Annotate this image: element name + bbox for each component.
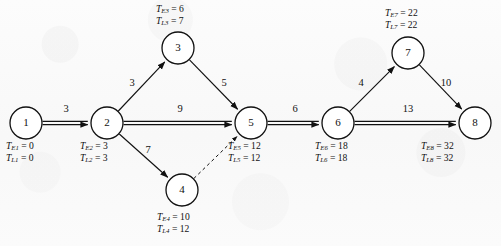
edge-weight-5-6: 6 bbox=[292, 103, 297, 114]
activity-line bbox=[190, 60, 238, 109]
node-number-5: 5 bbox=[248, 116, 254, 128]
earliest-time-node-5: TE5 = 12 bbox=[228, 140, 261, 152]
earliest-time-node-3: TE3 = 6 bbox=[156, 3, 184, 15]
edge-weight-2-3: 3 bbox=[129, 77, 134, 88]
latest-time-node-7: TL7 = 22 bbox=[385, 19, 418, 31]
node-2[interactable]: 2 bbox=[91, 107, 123, 139]
time-label-node-5: TE5 = 12TL5 = 12 bbox=[228, 140, 261, 164]
earliest-time-node-1: TE1 = 0 bbox=[6, 140, 34, 152]
edge-weight-6-7: 4 bbox=[358, 77, 364, 88]
edge-weight-2-5: 9 bbox=[177, 103, 182, 114]
edge-6-to-7 bbox=[350, 67, 395, 112]
node-5[interactable]: 5 bbox=[235, 107, 267, 139]
latest-time-node-5: TL5 = 12 bbox=[228, 152, 261, 164]
edge-2-to-4 bbox=[119, 134, 167, 177]
activity-line bbox=[118, 62, 164, 111]
edge-3-to-5 bbox=[190, 60, 238, 109]
earliest-time-node-4: TE4 = 10 bbox=[157, 211, 190, 223]
edge-2-to-5 bbox=[124, 121, 232, 124]
latest-time-node-1: TL1 = 0 bbox=[6, 152, 34, 164]
time-label-node-7: TE7 = 22TL7 = 22 bbox=[385, 7, 418, 31]
latest-time-node-2: TL2 = 3 bbox=[80, 152, 108, 164]
time-label-node-6: TE6 = 18TL6 = 18 bbox=[315, 140, 348, 164]
edge-1-to-2 bbox=[43, 121, 88, 124]
node-number-3: 3 bbox=[175, 41, 181, 53]
edge-weight-7-8: 10 bbox=[441, 77, 452, 88]
node-number-2: 2 bbox=[104, 116, 110, 128]
earliest-time-node-2: TE2 = 3 bbox=[80, 140, 108, 152]
node-number-4: 4 bbox=[179, 183, 185, 195]
earliest-time-node-6: TE6 = 18 bbox=[315, 140, 348, 152]
network-diagram-page: 12345678 33975641310 TE1 = 0TL1 = 0TE2 =… bbox=[0, 0, 501, 246]
latest-time-node-3: TL3 = 7 bbox=[156, 15, 184, 27]
earliest-time-node-7: TE7 = 22 bbox=[385, 7, 418, 19]
edge-weight-1-2: 3 bbox=[63, 103, 68, 114]
node-1[interactable]: 1 bbox=[10, 107, 42, 139]
time-label-node-2: TE2 = 3TL2 = 3 bbox=[80, 140, 108, 164]
node-number-7: 7 bbox=[405, 46, 411, 58]
node-6[interactable]: 6 bbox=[322, 107, 354, 139]
edge-2-to-3 bbox=[118, 62, 164, 111]
earliest-time-node-8: TE8 = 32 bbox=[421, 140, 454, 152]
latest-time-node-8: TL8 = 32 bbox=[421, 152, 454, 164]
edge-weight-2-4: 7 bbox=[145, 144, 150, 155]
node-number-6: 6 bbox=[335, 116, 341, 128]
latest-time-node-4: TL4 = 12 bbox=[157, 223, 190, 235]
node-number-8: 8 bbox=[472, 116, 478, 128]
node-number-1: 1 bbox=[23, 116, 29, 128]
node-4[interactable]: 4 bbox=[166, 174, 198, 206]
activity-line bbox=[119, 134, 167, 177]
time-label-node-1: TE1 = 0TL1 = 0 bbox=[6, 140, 34, 164]
nodes-layer: 12345678 bbox=[10, 32, 491, 206]
latest-time-node-6: TL6 = 18 bbox=[315, 152, 348, 164]
node-8[interactable]: 8 bbox=[459, 107, 491, 139]
edge-5-to-6 bbox=[268, 121, 319, 124]
node-7[interactable]: 7 bbox=[392, 37, 424, 69]
time-label-node-4: TE4 = 10TL4 = 12 bbox=[157, 211, 190, 235]
activity-line bbox=[350, 67, 395, 112]
edge-weight-6-8: 13 bbox=[403, 103, 414, 114]
time-label-node-3: TE3 = 6TL3 = 7 bbox=[156, 3, 184, 27]
edge-weight-3-5: 5 bbox=[221, 77, 226, 88]
time-label-node-8: TE8 = 32TL8 = 32 bbox=[421, 140, 454, 164]
node-3[interactable]: 3 bbox=[162, 32, 194, 64]
network-graph: 12345678 33975641310 bbox=[0, 0, 501, 246]
edge-6-to-8 bbox=[355, 121, 456, 124]
